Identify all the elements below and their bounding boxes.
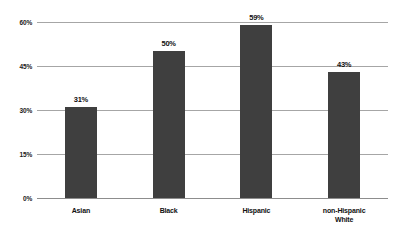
y-axis-tick-label: 30% bbox=[20, 107, 32, 114]
y-axis-tick-label: 45% bbox=[20, 63, 32, 70]
x-axis-category-label: Asian bbox=[72, 206, 90, 215]
bar-value-label: 31% bbox=[74, 95, 88, 104]
gridline-0 bbox=[37, 198, 388, 199]
bar-slot: 50% bbox=[125, 22, 213, 198]
x-axis-category-label: Black bbox=[160, 206, 178, 215]
y-axis-tick-label: 15% bbox=[20, 151, 32, 158]
bar-slot: 43% bbox=[300, 22, 388, 198]
bar-slot: 59% bbox=[213, 22, 301, 198]
x-axis-category-label: non-Hispanic White bbox=[323, 206, 366, 224]
bar[interactable] bbox=[240, 25, 272, 198]
bar-chart: 0%15%30%45%60%31%50%59%43% AsianBlackHis… bbox=[0, 0, 408, 243]
x-axis-category-label: Hispanic bbox=[242, 206, 270, 215]
bar[interactable] bbox=[65, 107, 97, 198]
bar[interactable] bbox=[153, 51, 185, 198]
bar-slot: 31% bbox=[37, 22, 125, 198]
plot-area: 0%15%30%45%60%31%50%59%43% bbox=[37, 22, 388, 198]
bar-value-label: 59% bbox=[249, 13, 263, 22]
y-axis-tick-label: 0% bbox=[23, 195, 32, 202]
bar[interactable] bbox=[328, 72, 360, 198]
y-axis-tick-label: 60% bbox=[20, 19, 32, 26]
bar-value-label: 43% bbox=[337, 60, 351, 69]
bar-value-label: 50% bbox=[161, 39, 175, 48]
